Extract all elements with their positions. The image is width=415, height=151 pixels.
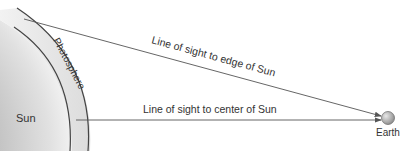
earth-icon	[382, 112, 395, 125]
edge-line-label: Line of sight to edge of Sun	[150, 33, 277, 78]
sun-earth-diagram: Sun Photosphere Line of sight to edge of…	[0, 0, 415, 151]
center-line-label: Line of sight to center of Sun	[143, 103, 277, 115]
sun-label: Sun	[16, 112, 36, 124]
earth-label: Earth	[376, 127, 400, 138]
